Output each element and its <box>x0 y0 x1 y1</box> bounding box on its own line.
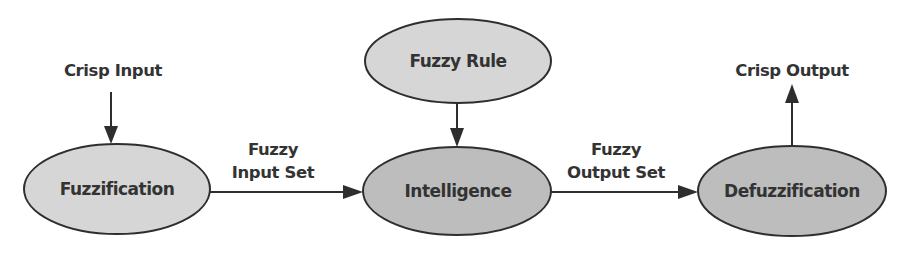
crisp-input-terminal: Crisp Input <box>64 61 163 80</box>
node-intelligence: Intelligence <box>363 147 551 235</box>
fuzzy-input-set-label-line2: Input Set <box>232 163 315 182</box>
arrow-right-icon <box>343 185 363 199</box>
intelligence-label: Intelligence <box>405 181 512 201</box>
fuzzy-logic-system-diagram: Crisp Input Fuzzy Rule Fuzzification Fuz… <box>0 0 904 255</box>
node-defuzzification: Defuzzification <box>698 146 886 236</box>
crisp-output-terminal: Crisp Output <box>735 61 849 80</box>
crisp-output-label: Crisp Output <box>735 61 849 80</box>
crisp-input-label: Crisp Input <box>64 61 163 80</box>
fuzzy-input-set-label-line1: Fuzzy <box>248 140 299 159</box>
fuzzification-label: Fuzzification <box>60 179 175 199</box>
fuzzy-output-set-label-line2: Output Set <box>567 163 665 182</box>
crisp-output-arrow <box>785 84 799 146</box>
fuzzy-rule-arrow <box>450 103 464 147</box>
crisp-input-arrow <box>104 92 118 144</box>
arrow-down-icon <box>104 126 118 144</box>
defuzzification-label: Defuzzification <box>724 181 860 201</box>
arrow-down-icon <box>450 128 464 147</box>
arrow-up-icon <box>785 84 799 103</box>
fuzzy-rule-label: Fuzzy Rule <box>409 51 506 71</box>
node-fuzzification: Fuzzification <box>24 144 210 234</box>
arrow-right-icon <box>678 185 698 199</box>
node-fuzzy-rule: Fuzzy Rule <box>365 19 551 103</box>
fuzzy-output-set-label-line1: Fuzzy <box>591 140 642 159</box>
edge-fuzzy-input-set: Fuzzy Input Set <box>210 140 363 199</box>
edge-fuzzy-output-set: Fuzzy Output Set <box>551 140 698 199</box>
